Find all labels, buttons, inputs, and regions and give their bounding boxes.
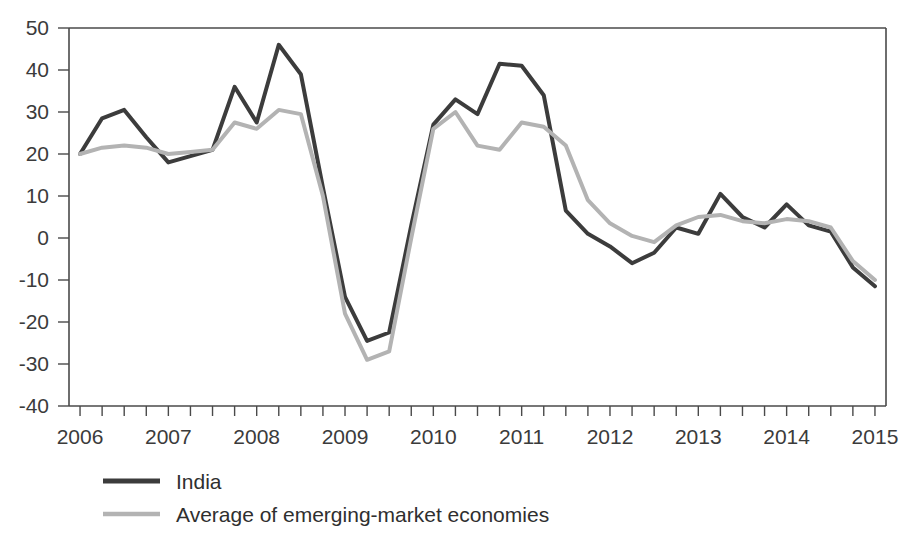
line-chart: 50403020100-10-20-30-40 2006200720082009… <box>0 0 914 538</box>
y-tick-label: -30 <box>19 352 49 375</box>
y-tick-label: 40 <box>26 58 49 81</box>
y-tick-label: -20 <box>19 310 49 333</box>
x-tick-label: 2012 <box>587 425 634 448</box>
y-axis-ticks: 50403020100-10-20-30-40 <box>19 16 69 417</box>
x-tick-label: 2011 <box>499 425 544 448</box>
x-tick-label: 2010 <box>410 425 457 448</box>
legend-label: India <box>176 470 222 493</box>
y-tick-label: 20 <box>26 142 49 165</box>
x-tick-label: 2014 <box>763 425 810 448</box>
series-line-india <box>80 45 875 341</box>
y-tick-label: -10 <box>19 268 49 291</box>
x-tick-label: 2013 <box>675 425 722 448</box>
axis-lines <box>69 28 886 406</box>
series-line-emerging-markets <box>80 110 875 360</box>
x-tick-label: 2008 <box>233 425 280 448</box>
x-tick-label: 2015 <box>852 425 899 448</box>
x-axis-ticks: 2006200720082009201020112012201320142015 <box>57 406 899 448</box>
x-tick-label: 2009 <box>322 425 369 448</box>
chart-legend: IndiaAverage of emerging-market economie… <box>103 470 549 526</box>
y-tick-label: 50 <box>26 16 49 39</box>
y-tick-label: -40 <box>19 394 49 417</box>
y-tick-label: 30 <box>26 100 49 123</box>
chart-figure: 50403020100-10-20-30-40 2006200720082009… <box>0 0 914 538</box>
legend-label: Average of emerging-market economies <box>176 503 549 526</box>
series-lines <box>80 45 875 360</box>
x-tick-label: 2007 <box>145 425 192 448</box>
y-tick-label: 10 <box>26 184 49 207</box>
x-tick-label: 2006 <box>57 425 104 448</box>
y-tick-label: 0 <box>37 226 49 249</box>
